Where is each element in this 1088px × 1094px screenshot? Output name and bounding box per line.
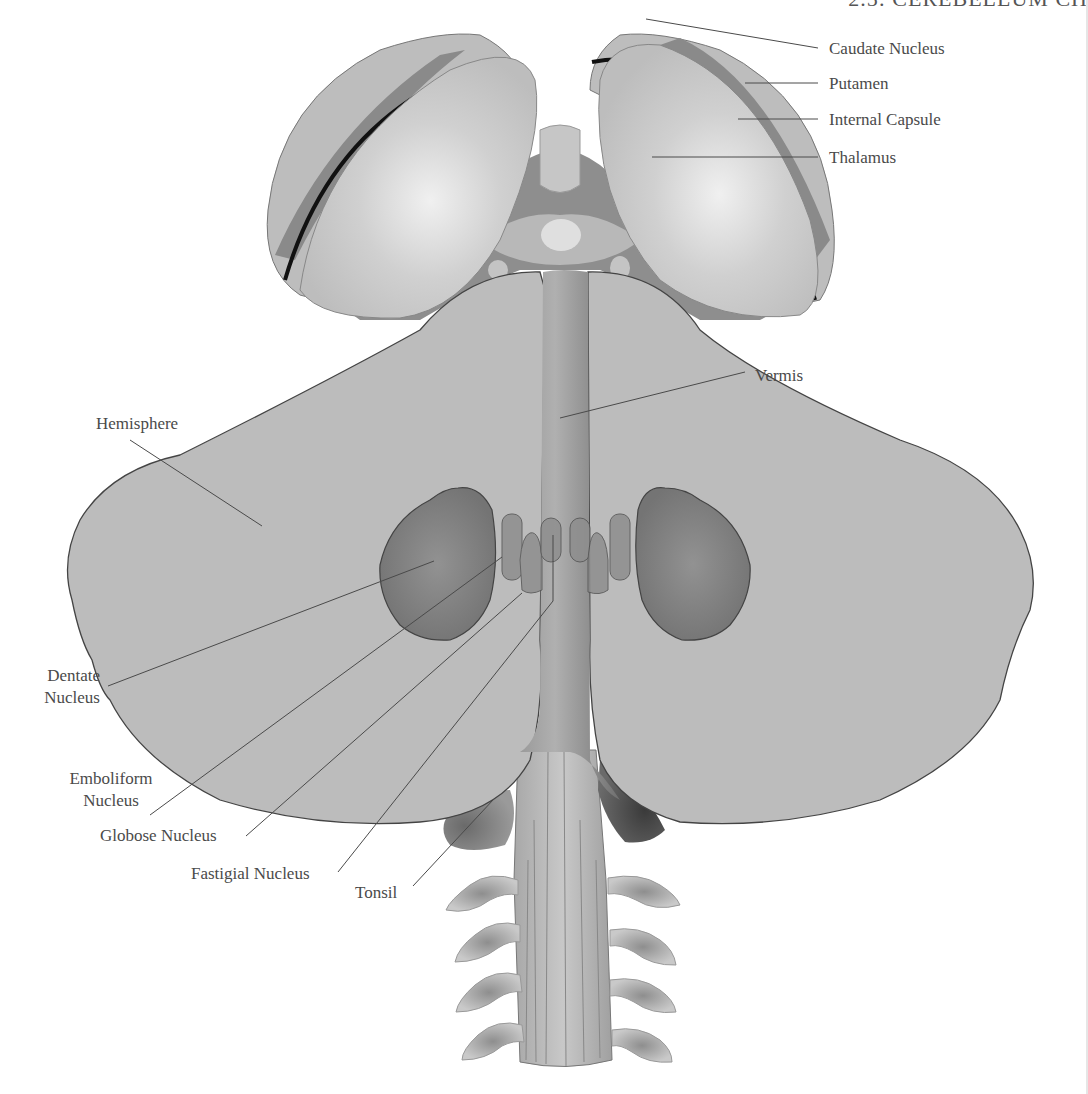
label-globose-nucleus: Globose Nucleus bbox=[100, 825, 217, 847]
emboliform-nucleus-left bbox=[502, 514, 522, 580]
label-thalamus: Thalamus bbox=[829, 147, 896, 169]
label-vermis: Vermis bbox=[755, 365, 803, 387]
label-emboliform-line2: Nucleus bbox=[56, 790, 166, 812]
fastigial-nucleus-right bbox=[570, 518, 590, 562]
label-tonsil: Tonsil bbox=[355, 882, 397, 904]
globose-nucleus-left bbox=[520, 533, 542, 593]
label-dentate-line1: Dentate bbox=[20, 665, 100, 687]
label-dentate-line2: Nucleus bbox=[20, 687, 100, 709]
fastigial-nucleus-left bbox=[541, 518, 561, 562]
cerebellum-diagram: 2.5: CEREBELLUM CH bbox=[0, 0, 1088, 1094]
label-fastigial-nucleus: Fastigial Nucleus bbox=[191, 863, 310, 885]
label-internal-capsule: Internal Capsule bbox=[829, 109, 941, 131]
globose-nucleus-right bbox=[588, 533, 608, 594]
label-emboliform-line1: Emboliform bbox=[56, 768, 166, 790]
label-dentate-nucleus: Dentate Nucleus bbox=[20, 665, 100, 709]
label-hemisphere: Hemisphere bbox=[96, 413, 178, 435]
brainstem bbox=[514, 750, 612, 1067]
anatomy-illustration bbox=[0, 0, 1088, 1094]
label-putamen: Putamen bbox=[829, 73, 889, 95]
emboliform-nucleus-right bbox=[610, 514, 630, 580]
label-caudate-nucleus: Caudate Nucleus bbox=[829, 38, 945, 60]
label-emboliform-nucleus: Emboliform Nucleus bbox=[56, 768, 166, 812]
